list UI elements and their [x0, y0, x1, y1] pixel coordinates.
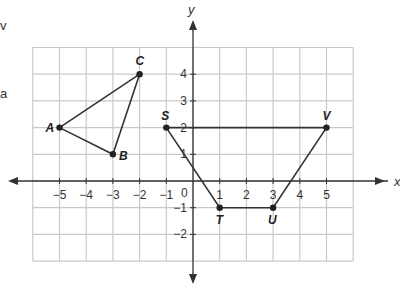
x-tick-label: 3: [270, 188, 277, 202]
y-axis-down-arrow-icon: [189, 274, 197, 284]
vertex-point-b: [110, 151, 116, 157]
x-axis-label: x: [393, 174, 400, 189]
x-tick-label: 4: [296, 188, 303, 202]
x-tick-label: −1: [159, 188, 173, 202]
origin-label: 0: [181, 186, 188, 200]
triangle-abc: [60, 74, 140, 154]
x-tick-label: −3: [106, 188, 120, 202]
x-axis-left-arrow-icon: [8, 177, 18, 185]
vertex-point-t: [217, 205, 223, 211]
x-tick-label: −4: [79, 188, 93, 202]
vertex-point-c: [136, 71, 142, 77]
y-tick-label: 4: [180, 67, 187, 81]
x-tick-label: 1: [216, 188, 223, 202]
coordinate-plane: xy0−5−4−3−2−1123454321−1−2ABCSTUV: [0, 0, 400, 291]
y-axis-label: y: [187, 2, 196, 17]
x-tick-label: −2: [133, 188, 147, 202]
y-tick-label: −2: [173, 227, 187, 241]
vertex-label-u: U: [268, 213, 277, 227]
vertex-point-v: [323, 124, 329, 130]
vertex-label-a: A: [45, 121, 55, 135]
y-tick-label: −1: [173, 201, 187, 215]
x-axis-right-arrow-icon: [375, 177, 385, 185]
x-tick-label: 2: [243, 188, 250, 202]
vertex-label-v: V: [323, 109, 332, 123]
vertex-label-t: T: [216, 213, 225, 227]
vertex-point-s: [163, 124, 169, 130]
y-axis-up-arrow-icon: [189, 20, 197, 30]
vertex-point-u: [270, 205, 276, 211]
vertex-label-c: C: [136, 54, 145, 68]
vertex-label-b: B: [119, 149, 128, 163]
y-tick-label: 3: [180, 94, 187, 108]
x-tick-label: −5: [53, 188, 67, 202]
vertex-label-s: S: [161, 109, 169, 123]
vertex-point-a: [56, 124, 62, 130]
x-tick-label: 5: [323, 188, 330, 202]
